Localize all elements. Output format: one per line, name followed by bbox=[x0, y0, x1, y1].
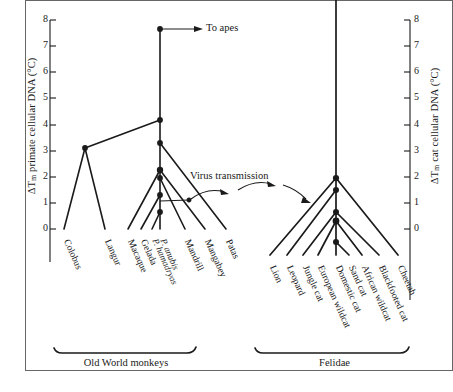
left-axis-title: ΔTm primate cellular DNA (°C) bbox=[26, 36, 38, 216]
left-tick-5: 5 bbox=[38, 91, 48, 102]
left-axis-title-prefix: ΔT bbox=[26, 181, 37, 194]
left-axis bbox=[50, 20, 56, 262]
virus-transmission-arrows bbox=[191, 183, 306, 199]
bracket-old-world-monkeys bbox=[54, 347, 196, 353]
left-tick-3: 3 bbox=[38, 144, 48, 155]
right-axis-title-rest: cat cellular DNA (°C) bbox=[429, 68, 440, 165]
left-tick-1: 1 bbox=[38, 196, 48, 207]
bracket-felidae bbox=[255, 347, 409, 353]
left-axis-title-sub: m bbox=[29, 175, 38, 181]
right-tick-1: 1 bbox=[414, 196, 419, 207]
node-papio bbox=[157, 209, 163, 215]
old-world-monkey-tree bbox=[64, 29, 226, 229]
right-axis-title-prefix: ΔT bbox=[429, 171, 440, 184]
right-axis-title: ΔTm cat cellular DNA (°C) bbox=[429, 36, 441, 216]
right-tick-4: 4 bbox=[414, 118, 419, 129]
node-papionin bbox=[157, 167, 163, 173]
node-root-to-apes bbox=[157, 26, 163, 32]
node-felis bbox=[333, 209, 339, 215]
right-axis bbox=[404, 20, 410, 300]
virus-transmission-label: Virus transmission bbox=[190, 170, 268, 181]
left-tick-0: 0 bbox=[38, 222, 48, 233]
node-papio-macaca bbox=[157, 175, 163, 181]
right-tick-3: 3 bbox=[414, 144, 419, 155]
node-domestic-cat-sub bbox=[333, 239, 339, 245]
left-tick-6: 6 bbox=[38, 65, 48, 76]
node-colobine-cercopithecine-split bbox=[157, 117, 163, 123]
node-cercopithecine bbox=[157, 140, 163, 146]
group-label-felidae: Felidae bbox=[262, 357, 407, 368]
group-label-old-world-monkeys: Old World monkeys bbox=[56, 357, 196, 368]
right-tick-6: 6 bbox=[414, 65, 419, 76]
node-domestic-cat-clade bbox=[333, 218, 340, 225]
right-tick-5: 5 bbox=[414, 91, 419, 102]
node-colobine bbox=[82, 145, 88, 151]
felidae-tree bbox=[270, 0, 398, 255]
node-papio-gelada bbox=[157, 192, 163, 198]
node-pantherine-felis bbox=[333, 187, 339, 193]
left-tick-2: 2 bbox=[38, 170, 48, 181]
to-apes-label: To apes bbox=[206, 22, 238, 33]
left-tick-4: 4 bbox=[38, 118, 48, 129]
right-tick-2: 2 bbox=[414, 170, 419, 181]
right-tick-8: 8 bbox=[414, 13, 419, 24]
left-tick-7: 7 bbox=[38, 39, 48, 50]
node-felidae-root bbox=[333, 175, 339, 181]
right-tick-0: 0 bbox=[414, 222, 419, 233]
right-tick-7: 7 bbox=[414, 39, 419, 50]
right-axis-title-sub: m bbox=[432, 165, 441, 171]
left-axis-title-rest: primate cellular DNA (°C) bbox=[26, 58, 37, 175]
group-brackets bbox=[54, 347, 409, 353]
left-tick-8: 8 bbox=[38, 13, 48, 24]
virus-origin-link bbox=[160, 200, 189, 201]
phylogeny-figure bbox=[0, 0, 453, 392]
to-apes-arrowhead bbox=[194, 26, 203, 32]
